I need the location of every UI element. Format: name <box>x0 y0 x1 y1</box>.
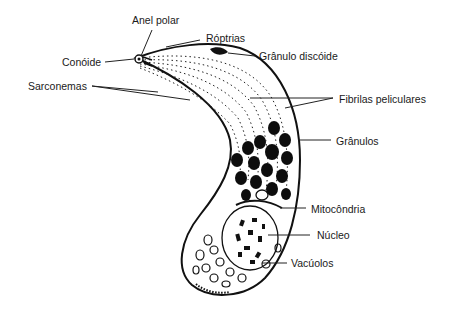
label-roptrias: Róptrias <box>206 32 245 44</box>
label-vacuolos: Vacúolos <box>291 257 333 269</box>
label-mitocondria: Mitocôndria <box>311 203 365 215</box>
label-nucleo: Núcleo <box>317 229 350 241</box>
label-anel-polar: Anel polar <box>132 14 179 26</box>
label-sarconemas: Sarconemas <box>28 80 87 92</box>
label-conoide: Conóide <box>62 56 101 68</box>
label-fibrilas-peliculares: Fibrilas peliculares <box>339 93 426 105</box>
label-granulo-discoide: Grânulo discóide <box>259 50 338 62</box>
toxoplasma-diagram: Anel polar Róptrias Conóide Grânulo disc… <box>0 0 451 310</box>
cell-membrane <box>136 44 300 295</box>
cell-illustration <box>0 0 451 310</box>
label-granulos: Grânulos <box>336 135 379 147</box>
